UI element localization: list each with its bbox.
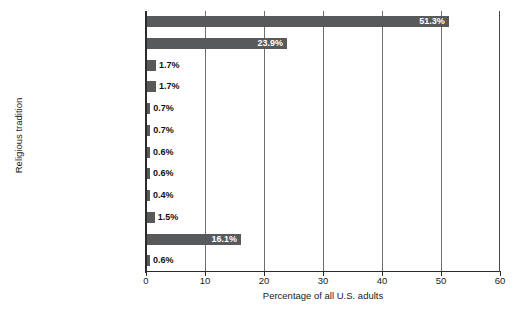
bar-row: Orthodox Christians0.6%	[146, 142, 500, 164]
bar-row: Buddhists0.7%	[146, 120, 500, 142]
x-axis-title: Percentage of all U.S. adults	[146, 290, 500, 301]
bar-row: Jews1.7%	[146, 76, 500, 98]
x-tick-label-60: 60	[485, 275, 515, 286]
bar	[146, 212, 155, 223]
bar-value-label: 0.6%	[153, 167, 174, 179]
bar-row: Muslims0.6%	[146, 163, 500, 185]
y-axis-line	[145, 11, 147, 273]
x-tick-label-50: 50	[426, 275, 456, 286]
bar-row: Unaffiliated16.1%	[146, 229, 500, 251]
bar-chart: Religious tradition Protestants51.3%Roma…	[0, 0, 522, 322]
bar-value-label: 1.7%	[159, 59, 180, 71]
x-tick-label-10: 10	[190, 275, 220, 286]
bar-row: Other faiths1.5%	[146, 207, 500, 229]
x-tick-label-40: 40	[367, 275, 397, 286]
bar-value-label: 1.5%	[158, 211, 179, 223]
bar-row: Hindus0.4%	[146, 185, 500, 207]
bar-row: Jehovah's Witnesses0.7%	[146, 98, 500, 120]
x-tick-label-20: 20	[249, 275, 279, 286]
y-axis-title: Religious tradition	[13, 71, 24, 201]
bar-value-label: 0.6%	[153, 254, 174, 266]
bar-value-label: 51.3%	[409, 15, 445, 27]
bar-row: Roman Catholics23.9%	[146, 33, 500, 55]
bar	[146, 16, 449, 27]
bar-value-label: 0.7%	[153, 102, 174, 114]
x-tick-label-0: 0	[131, 275, 161, 286]
plot-right-frame	[499, 11, 500, 272]
bar-value-label: 23.9%	[247, 37, 283, 49]
bar-value-label: 16.1%	[201, 233, 237, 245]
bar-row: Mormons1.7%	[146, 55, 500, 77]
bar-row: Protestants51.3%	[146, 11, 500, 33]
bar-row: Don't know/no answer0.6%	[146, 250, 500, 272]
bar	[146, 81, 156, 92]
bar	[146, 60, 156, 71]
bar-value-label: 0.7%	[153, 124, 174, 136]
x-tick-label-30: 30	[308, 275, 338, 286]
bar-value-label: 0.4%	[153, 189, 174, 201]
bar-value-label: 0.6%	[153, 146, 174, 158]
plot-area: Protestants51.3%Roman Catholics23.9%Morm…	[146, 11, 500, 272]
bar-value-label: 1.7%	[159, 80, 180, 92]
